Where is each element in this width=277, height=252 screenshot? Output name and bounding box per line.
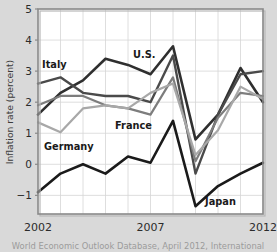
x-axis-ticks: 200220072012 [24,221,277,234]
series-label-germany: Germany [44,141,94,152]
y-tick-label: 3 [25,65,32,77]
series-label-us: U.S. [133,49,155,60]
y-tick-label: 5 [25,3,32,15]
x-tick-label: 2007 [137,221,165,234]
x-tick-label: 2002 [24,221,52,234]
y-tick-label: −1 [17,189,32,201]
inflation-rate-line-chart: −1012345 200220072012 ItalyU.S.FranceGer… [0,0,277,252]
y-axis-ticks: −1012345 [17,3,38,201]
figure-caption: World Economic Outlook Database, April 2… [12,241,264,251]
y-tick-label: 0 [25,158,32,170]
x-tick-label: 2012 [249,221,277,234]
y-tick-label: 1 [25,127,32,139]
series-label-france: France [115,120,152,131]
chart-figure: −1012345 200220072012 ItalyU.S.FranceGer… [0,0,277,252]
y-tick-label: 2 [25,96,32,108]
series-label-japan: Japan [204,196,236,207]
series-label-italy: Italy [42,59,67,70]
y-axis-label: Inflation rate (percent) [4,60,15,164]
y-tick-label: 4 [25,34,32,46]
